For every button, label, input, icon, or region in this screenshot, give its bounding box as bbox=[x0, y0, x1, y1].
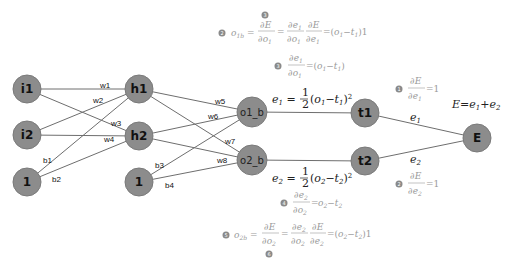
svg-text:o1−t1): o1−t1) bbox=[317, 61, 345, 72]
edge-w5 bbox=[139, 89, 252, 112]
svg-text:1: 1 bbox=[23, 175, 31, 189]
equation-dE-de2: 2 ∂E ∂e2 =1 bbox=[396, 171, 440, 197]
svg-text:e1 =: e1 = bbox=[272, 93, 296, 107]
edge-t2-E bbox=[365, 138, 477, 161]
label-b2: b2 bbox=[52, 175, 61, 184]
node-o2: o2_b bbox=[237, 145, 267, 175]
svg-text:=1: =1 bbox=[426, 179, 439, 189]
node-o1: o1_b bbox=[237, 97, 267, 127]
svg-text:∂e1: ∂e1 bbox=[408, 91, 422, 102]
edge-t1-E bbox=[365, 113, 477, 138]
svg-text:5: 5 bbox=[224, 232, 227, 238]
svg-text:(o1−t1)2: (o1−t1)2 bbox=[310, 93, 352, 107]
svg-text:∂e2: ∂e2 bbox=[294, 190, 308, 201]
label-w7: w7 bbox=[224, 137, 236, 146]
svg-text:∂e1: ∂e1 bbox=[289, 53, 303, 64]
svg-text:∂o2: ∂o2 bbox=[291, 236, 305, 247]
equation-e2-def: e2 = 1 2 (o2−t2)2 bbox=[272, 165, 352, 190]
svg-text:o1b =: o1b = bbox=[231, 28, 255, 39]
svg-text:=(: =( bbox=[306, 61, 317, 71]
equation-de2-do2: 4 ∂e2 ∂o2 = o2−t2 bbox=[281, 190, 343, 216]
svg-text:∂o2: ∂o2 bbox=[262, 236, 276, 247]
node-bias-hidden: 1 bbox=[125, 168, 153, 196]
svg-text:h2: h2 bbox=[131, 129, 148, 143]
svg-text:=1: =1 bbox=[426, 84, 439, 94]
svg-text:=: = bbox=[277, 27, 285, 37]
equation-o1b: 2 o1b = ∂E ∂o1 = ∂e1 ∂o1 ∂E ∂e1 =( o1−t1… bbox=[219, 20, 368, 45]
label-w3: w3 bbox=[110, 119, 122, 128]
svg-text:1: 1 bbox=[135, 175, 143, 189]
svg-text:i2: i2 bbox=[21, 128, 33, 142]
node-h2: h2 bbox=[125, 122, 153, 150]
svg-text:o2−t2: o2−t2 bbox=[318, 198, 342, 209]
edge-o1-t1 bbox=[252, 112, 365, 113]
neural-network-diagram: w1 w2 w3 w4 b1 b2 w5 w6 w7 w8 b3 b4 i1 i… bbox=[0, 0, 531, 271]
svg-text:∂o1: ∂o1 bbox=[287, 34, 301, 45]
badge-top: 3 bbox=[262, 12, 269, 19]
node-i1: i1 bbox=[13, 75, 41, 103]
svg-text:=(: =( bbox=[327, 229, 338, 239]
svg-text:e2 =: e2 = bbox=[272, 172, 296, 186]
label-b1: b1 bbox=[43, 156, 52, 165]
label-w1: w1 bbox=[99, 81, 111, 90]
equation-total-error: E=e1+e2 bbox=[451, 98, 501, 112]
svg-text:∂e1: ∂e1 bbox=[306, 34, 320, 45]
svg-text:o1−t1)1: o1−t1)1 bbox=[334, 27, 368, 38]
label-w2: w2 bbox=[92, 96, 104, 105]
edge-label-e2: e2 bbox=[410, 153, 422, 167]
svg-text:2: 2 bbox=[220, 30, 223, 36]
label-w5: w5 bbox=[214, 97, 226, 106]
svg-text:(o2−t2)2: (o2−t2)2 bbox=[310, 172, 352, 186]
svg-text:o1_b: o1_b bbox=[240, 107, 264, 119]
svg-text:1: 1 bbox=[397, 86, 400, 92]
node-h1: h1 bbox=[125, 75, 153, 103]
label-w4: w4 bbox=[103, 135, 115, 144]
svg-text:∂e2: ∂e2 bbox=[408, 186, 422, 197]
equation-dE-de1: 1 ∂E ∂e1 =1 bbox=[396, 76, 440, 102]
label-w6: w6 bbox=[207, 112, 219, 121]
node-bias-input: 1 bbox=[13, 168, 41, 196]
svg-text:t1: t1 bbox=[358, 106, 372, 120]
svg-text:6: 6 bbox=[267, 251, 270, 257]
svg-text:∂o1: ∂o1 bbox=[288, 68, 302, 79]
svg-text:2: 2 bbox=[397, 181, 400, 187]
node-E: E bbox=[463, 124, 491, 152]
equation-e1-def: e1 = 1 2 (o1−t1)2 bbox=[272, 86, 352, 111]
svg-text:∂E: ∂E bbox=[260, 20, 272, 30]
node-i2: i2 bbox=[13, 121, 41, 149]
svg-text:∂e2: ∂e2 bbox=[310, 236, 324, 247]
svg-text:∂o1: ∂o1 bbox=[258, 34, 272, 45]
svg-text:2: 2 bbox=[302, 177, 309, 190]
svg-text:t2: t2 bbox=[358, 154, 372, 168]
svg-text:3: 3 bbox=[263, 12, 266, 18]
label-b3: b3 bbox=[155, 161, 164, 170]
label-w8: w8 bbox=[216, 156, 228, 165]
svg-text:4: 4 bbox=[282, 200, 285, 206]
equation-de1-do1: 3 ∂e1 ∂o1 =( o1−t1) bbox=[275, 53, 345, 79]
svg-text:o2_b: o2_b bbox=[240, 155, 264, 167]
svg-text:∂e2: ∂e2 bbox=[292, 222, 306, 233]
svg-text:=(: =( bbox=[323, 27, 334, 37]
svg-text:o2b =: o2b = bbox=[234, 230, 258, 241]
svg-text:3: 3 bbox=[276, 63, 279, 69]
badge-bottom: 6 bbox=[266, 251, 273, 258]
node-t1: t1 bbox=[351, 99, 379, 127]
svg-text:=: = bbox=[281, 229, 289, 239]
svg-text:2: 2 bbox=[302, 98, 309, 111]
node-t2: t2 bbox=[351, 147, 379, 175]
equation-o2b: 5 o2b = ∂E ∂o2 = ∂e2 ∂o2 ∂E ∂e2 =( o2−t2… bbox=[223, 222, 372, 247]
label-b4: b4 bbox=[165, 181, 174, 190]
edge-label-e1: e1 bbox=[410, 111, 421, 125]
svg-text:∂E: ∂E bbox=[308, 20, 320, 30]
svg-text:∂E: ∂E bbox=[264, 222, 276, 232]
svg-text:i1: i1 bbox=[21, 82, 33, 96]
svg-text:o2−t2)1: o2−t2)1 bbox=[338, 229, 372, 240]
svg-text:h1: h1 bbox=[131, 82, 148, 96]
svg-text:∂e1: ∂e1 bbox=[288, 20, 302, 31]
edge-w7 bbox=[139, 89, 252, 160]
svg-text:E: E bbox=[473, 131, 481, 145]
svg-text:∂E: ∂E bbox=[312, 222, 324, 232]
svg-text:∂E: ∂E bbox=[410, 171, 422, 181]
svg-text:∂o2: ∂o2 bbox=[293, 205, 307, 216]
svg-text:∂E: ∂E bbox=[410, 76, 422, 86]
